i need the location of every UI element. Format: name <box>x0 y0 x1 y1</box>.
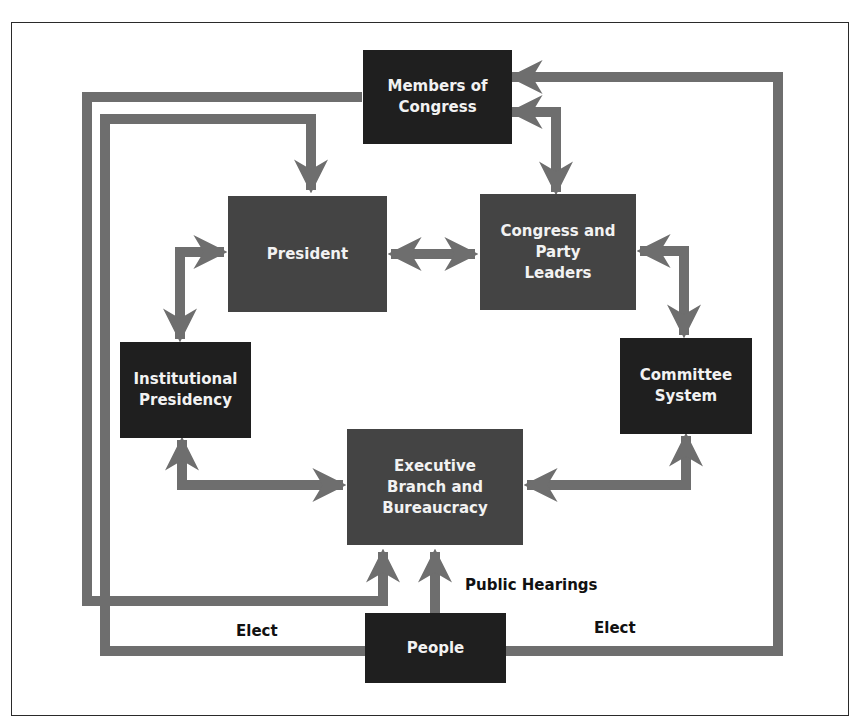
node-label: President <box>267 244 348 265</box>
node-congress-party-leaders: Congress and Party Leaders <box>480 194 636 310</box>
node-members-of-congress: Members of Congress <box>363 50 512 144</box>
node-label: Committee System <box>640 365 732 407</box>
node-people: People <box>365 613 506 683</box>
node-institutional-presidency: Institutional Presidency <box>120 342 251 438</box>
node-executive-branch: Executive Branch and Bureaucracy <box>347 429 523 545</box>
node-committee-system: Committee System <box>620 338 752 434</box>
node-label: Members of Congress <box>387 76 487 118</box>
connector-congress-partyleaders <box>512 112 556 192</box>
node-label: Executive Branch and Bureaucracy <box>382 456 488 519</box>
edge-label-elect-left: Elect <box>236 622 278 640</box>
node-label: Congress and Party Leaders <box>501 221 616 284</box>
connector-institutional-executive <box>182 440 343 485</box>
node-label: People <box>407 638 465 659</box>
connector-committee-executive <box>527 436 686 485</box>
connector-president-institutional <box>180 252 224 339</box>
edge-label-elect-right: Elect <box>594 619 636 637</box>
edge-label-public-hearings: Public Hearings <box>465 576 598 594</box>
connector-partyleaders-committee <box>640 251 684 335</box>
node-president: President <box>228 196 387 312</box>
node-label: Institutional Presidency <box>134 369 238 411</box>
